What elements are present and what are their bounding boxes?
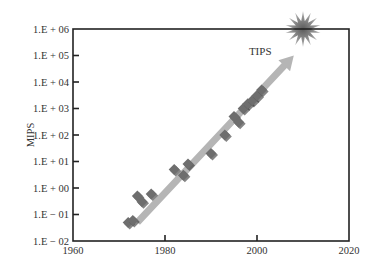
y-tick-label: 1.E + 03 [33, 103, 69, 114]
arrow-up-right-icon [135, 56, 294, 225]
y-tick-label: 1.E + 05 [33, 50, 69, 61]
y-axis-tick-labels: 1.E + 061.E + 051.E + 041.E + 031.E + 02… [33, 24, 70, 247]
y-tick-label: 1.E + 02 [33, 130, 69, 141]
x-tick-label: 1980 [155, 245, 176, 256]
plot-frame [73, 29, 349, 241]
y-axis-title: MIPS [25, 123, 36, 148]
trend-arrow [135, 56, 294, 225]
y-tick-label: 1.E + 01 [33, 156, 69, 167]
y-tick-label: 1.E + 04 [33, 77, 70, 88]
y-tick-label: 1.E + 00 [33, 183, 69, 194]
mips-chart: 1.E + 061.E + 051.E + 041.E + 031.E + 02… [0, 0, 374, 269]
y-tick-label: 1.E + 06 [33, 24, 69, 35]
x-axis-tick-labels: 1960198020002020 [63, 245, 360, 256]
annotation-labels: TIPS [249, 45, 272, 57]
y-tick-label: 1.E − 01 [33, 209, 69, 220]
tips-label: TIPS [249, 45, 272, 57]
plot-border [73, 29, 349, 241]
x-tick-label: 2000 [247, 245, 268, 256]
x-tick-label: 2020 [339, 245, 360, 256]
x-tick-label: 1960 [63, 245, 84, 256]
